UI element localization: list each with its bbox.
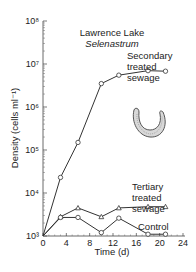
x-tick-label: 24 (178, 238, 188, 248)
circle-marker (117, 73, 121, 77)
x-tick-label: 0 (40, 238, 45, 248)
label-tertiary-3: sewage (132, 203, 165, 214)
selenastrum-cell-icon (133, 108, 165, 137)
label-tertiary-2: treated (132, 192, 162, 203)
growth-chart: 0481216202410³10⁴10⁵10⁶10⁷10⁸ Lawrence L… (0, 0, 196, 272)
x-tick-label: 4 (64, 238, 69, 248)
y-tick-label: 10⁷ (26, 59, 39, 69)
x-tick-label: 8 (87, 238, 92, 248)
circle-marker (58, 215, 62, 219)
circle-marker (58, 175, 62, 179)
y-tick-label: 10⁵ (25, 145, 39, 155)
x-tick-label: 16 (131, 238, 141, 248)
y-tick-label: 10⁴ (25, 188, 39, 198)
circle-marker (163, 69, 167, 73)
label-secondary-2: treated (127, 61, 157, 72)
label-secondary-3: sewage (127, 72, 160, 83)
y-axis-label: Density (cells ml⁻¹) (9, 88, 20, 168)
y-tick-label: 10⁸ (25, 16, 39, 26)
circle-marker (146, 232, 150, 236)
circle-marker (117, 216, 121, 220)
label-control: Control (138, 221, 169, 232)
x-axis-label: Time (d) (94, 246, 129, 257)
circle-marker (99, 81, 103, 85)
circle-marker (76, 215, 80, 219)
y-tick-label: 10³ (26, 231, 39, 241)
label-secondary-1: Secondary (127, 50, 173, 61)
chart-title: Lawrence Lake (80, 27, 144, 38)
x-tick-label: 20 (155, 238, 165, 248)
circle-marker (163, 232, 167, 236)
triangle-marker (76, 206, 81, 210)
label-tertiary-1: Tertiary (132, 181, 163, 192)
chart-subtitle: Selenastrum (85, 38, 138, 49)
circle-marker (99, 230, 103, 234)
circle-marker (76, 140, 80, 144)
y-tick-label: 10⁶ (25, 102, 39, 112)
